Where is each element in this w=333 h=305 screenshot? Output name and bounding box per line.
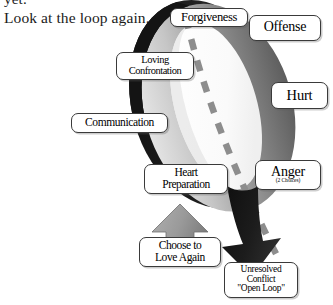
label-communication-text: Communication [85,117,154,129]
label-choose-to-love-again[interactable]: Choose to Love Again [139,237,221,267]
label-heart-preparation-line2: Preparation [162,179,210,191]
diagram-canvas: yet. Look at the loop again. [0,0,333,305]
label-offense-text: Offense [264,20,307,34]
label-forgiveness-text: Forgiveness [181,11,237,24]
label-choose-to-love-again-line1: Choose to [159,240,202,252]
label-unresolved-conflict[interactable]: Unresolved Conflict "Open Loop" [224,262,298,298]
label-anger[interactable]: Anger (2 Choices) [255,160,321,190]
label-heart-preparation[interactable]: Heart Preparation [144,164,228,194]
label-hurt[interactable]: Hurt [271,82,328,109]
label-choose-to-love-again-line2: Love Again [155,252,205,264]
label-anger-subtext: (2 Choices) [276,178,300,184]
label-loving-confrontation[interactable]: Loving Confrontation [116,52,194,80]
label-loving-confrontation-line2: Confrontation [129,66,181,77]
label-communication[interactable]: Communication [71,113,168,133]
label-unresolved-conflict-line3: "Open Loop" [237,284,284,294]
label-heart-preparation-line1: Heart [174,167,197,179]
label-hurt-text: Hurt [287,88,313,103]
label-offense[interactable]: Offense [249,15,321,41]
label-forgiveness[interactable]: Forgiveness [170,8,248,27]
label-loving-confrontation-line1: Loving [141,55,168,66]
